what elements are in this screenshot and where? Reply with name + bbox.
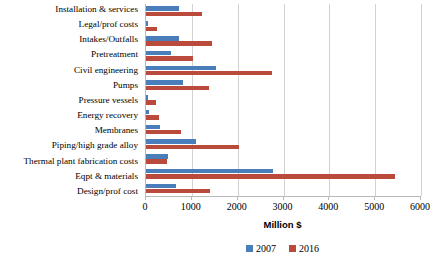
axis-tick [374, 196, 375, 200]
category-label: Installation & services [0, 4, 141, 14]
bar-row [146, 181, 421, 196]
bar-row [146, 34, 421, 49]
axis-tick-label: 3000 [273, 201, 293, 213]
category-label: Civil engineering [0, 65, 141, 75]
plot-wrapper: Installation & servicesLegal/prof costsI… [0, 0, 434, 200]
category-label: Design/prof cost [0, 186, 141, 196]
bar-2016 [146, 27, 157, 32]
bar-2016 [146, 145, 239, 150]
bar-2007 [146, 36, 179, 41]
bar-row [146, 48, 421, 63]
legend-swatch-icon [246, 245, 253, 252]
legend-item[interactable]: 2016 [289, 243, 319, 254]
category-label: Membranes [0, 125, 141, 135]
bar-row [146, 19, 421, 34]
bar-2016 [146, 159, 167, 164]
bar-2016 [146, 174, 395, 179]
legend-swatch-icon [289, 245, 296, 252]
bar-chart: Installation & servicesLegal/prof costsI… [0, 0, 434, 266]
bar-2016 [146, 86, 209, 91]
bar-row [146, 152, 421, 167]
bar-2007 [146, 110, 149, 115]
axis-tick [237, 196, 238, 200]
bar-2016 [146, 130, 181, 135]
bar-2016 [146, 189, 210, 194]
bar-row [146, 78, 421, 93]
axis-tick [283, 196, 284, 200]
category-label: Pumps [0, 80, 141, 90]
axis-tick [145, 196, 146, 200]
axis-tick-label: 0 [143, 201, 148, 213]
axis-tick-label: 5000 [364, 201, 384, 213]
bar-row [146, 93, 421, 108]
bar-2016 [146, 56, 193, 61]
category-axis-labels: Installation & servicesLegal/prof costsI… [0, 4, 141, 196]
category-label: Piping/high grade alloy [0, 140, 141, 150]
category-label: Pressure vessels [0, 95, 141, 105]
bar-2016 [146, 115, 159, 120]
legend-label: 2016 [299, 243, 319, 254]
bar-2007 [146, 169, 273, 174]
bar-row [146, 63, 421, 78]
axis-tick-label: 6000 [410, 201, 430, 213]
bar-row [146, 4, 421, 19]
bar-row [146, 166, 421, 181]
category-label: Thermal plant fabrication costs [0, 156, 141, 166]
axis-tick [420, 196, 421, 200]
axis-tick [328, 196, 329, 200]
x-axis-title: Million $ [145, 219, 420, 230]
bar-2007 [146, 139, 196, 144]
value-axis-ticks [145, 196, 420, 200]
bar-2016 [146, 100, 156, 105]
chart-legend: 20072016 [145, 243, 420, 254]
category-label: Eqpt & materials [0, 171, 141, 181]
category-label: Legal/prof costs [0, 19, 141, 29]
bar-2016 [146, 41, 212, 46]
bar-2016 [146, 12, 202, 17]
legend-item[interactable]: 2007 [246, 243, 276, 254]
value-axis-tick-labels: 0100020003000400050006000 [0, 201, 434, 215]
category-label: Pretreatment [0, 49, 141, 59]
category-label: Intakes/Outfalls [0, 34, 141, 44]
bar-2007 [146, 21, 148, 26]
bar-row [146, 137, 421, 152]
axis-tick [191, 196, 192, 200]
axis-tick-label: 1000 [181, 201, 201, 213]
bar-rows [146, 4, 421, 196]
bar-2007 [146, 66, 216, 71]
bar-2007 [146, 95, 148, 100]
legend-label: 2007 [256, 243, 276, 254]
bar-2007 [146, 125, 160, 130]
bar-2007 [146, 51, 171, 56]
axis-tick-label: 4000 [318, 201, 338, 213]
bar-2007 [146, 154, 168, 159]
bar-row [146, 122, 421, 137]
plot-area [145, 4, 421, 196]
bar-2007 [146, 184, 176, 189]
bar-2007 [146, 6, 179, 11]
bar-2016 [146, 71, 272, 76]
bar-2007 [146, 80, 183, 85]
axis-tick-label: 2000 [227, 201, 247, 213]
gridline [421, 4, 422, 196]
category-label: Energy recovery [0, 110, 141, 120]
bar-row [146, 107, 421, 122]
